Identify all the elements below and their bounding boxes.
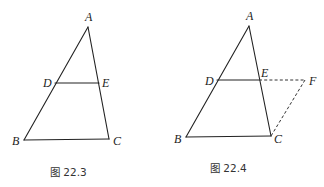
point-label-c: C	[113, 134, 122, 148]
segment-ac	[249, 26, 271, 136]
point-label-c: C	[274, 132, 283, 146]
point-label-e: E	[101, 76, 110, 90]
segment-fc-dashed	[271, 80, 305, 136]
diagram-stage: A D E B C 图 22.3 A D E F B C 图 22.4	[0, 0, 324, 187]
segment-ab	[186, 26, 249, 137]
figure-caption: 图 22.4	[210, 162, 247, 174]
figure-caption: 图 22.3	[50, 166, 87, 178]
point-label-b: B	[174, 132, 182, 146]
point-label-a: A	[245, 9, 254, 23]
point-label-f: F	[308, 74, 317, 88]
point-label-b: B	[12, 134, 20, 148]
figure-22-3: A D E B C 图 22.3	[12, 10, 122, 178]
figure-22-4: A D E F B C 图 22.4	[174, 9, 317, 174]
point-label-a: A	[84, 10, 93, 24]
point-label-e: E	[260, 66, 269, 80]
segment-bc	[186, 136, 271, 137]
geometry-figures: A D E B C 图 22.3 A D E F B C 图 22.4	[0, 0, 324, 187]
point-label-d: D	[42, 76, 52, 90]
segment-bc	[24, 139, 109, 140]
point-label-d: D	[204, 74, 214, 88]
